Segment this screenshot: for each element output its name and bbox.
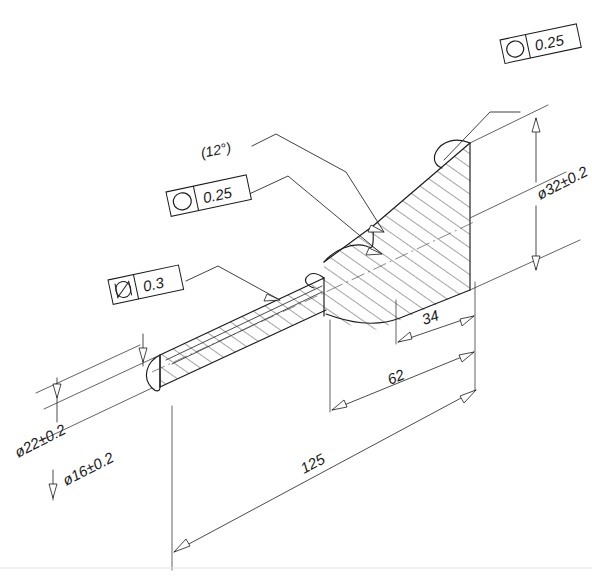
dimension-dia-16: ø16±0.2 (49, 334, 147, 500)
dim-62-arrow-left (332, 400, 347, 410)
dim-16-label: ø16±0.2 (60, 448, 117, 488)
engineering-drawing-svg: ø32±0.2 ø22±0.2 ø16±0.2 34 (0, 0, 592, 584)
dim-125-arrow-left (174, 539, 190, 552)
dim-62-label: 62 (385, 366, 407, 388)
dim-16-arrow-lower (49, 484, 57, 498)
large-shaft-section (300, 120, 500, 350)
note-label-12deg: (12°) (199, 139, 232, 161)
projection-line-bottom-right (470, 240, 580, 290)
dimension-dia-22: ø22±0.2 (12, 378, 69, 461)
dim-32-label: ø32±0.2 (534, 162, 591, 202)
dim-22-arrow (53, 384, 61, 398)
dim-22-label: ø22±0.2 (12, 420, 69, 460)
fcf-lower-left[interactable]: 0.3 (108, 265, 280, 304)
dim-125-arrow-right (460, 390, 476, 403)
projection-line-left-top (36, 345, 140, 393)
dim-16-arrow-upper (139, 348, 147, 362)
dim-125-line (174, 390, 476, 552)
fcf-lower-left-leader (186, 266, 280, 300)
dimension-125: 125 (174, 390, 476, 552)
dim-125-label: 125 (297, 450, 328, 477)
dimension-62: 62 (332, 352, 474, 410)
dim-62-arrow-right (459, 352, 474, 362)
note-leader-12deg (252, 134, 384, 232)
dim-34-arrow-left (398, 332, 412, 342)
fcf-top-right[interactable]: 0.25 (444, 24, 581, 160)
fcf-top-right-leader (444, 112, 520, 160)
dim-34-arrow-right (460, 316, 474, 326)
technical-drawing-canvas: ø32±0.2 ø22±0.2 ø16±0.2 34 (0, 0, 592, 584)
dim-32-arrow-top (532, 118, 540, 132)
fcf-lower-left-arrow (264, 294, 280, 301)
dimension-dia-32: ø32±0.2 (532, 118, 591, 270)
dim-32-arrow-bottom (532, 256, 540, 270)
